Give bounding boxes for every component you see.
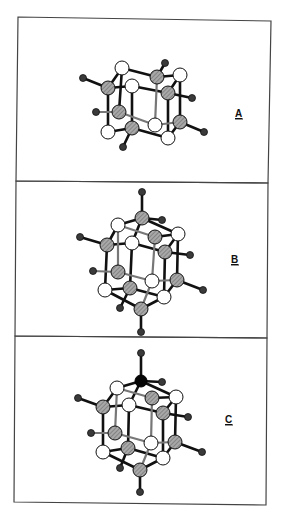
black-cap-atom [135, 375, 147, 387]
panel-a-frame [16, 17, 271, 183]
panel-a-molecule [80, 60, 208, 151]
panel-c-label: C [225, 414, 232, 425]
panel-b-label: B [231, 254, 238, 265]
panel-c-molecule [75, 350, 206, 496]
panel-a-label: A [235, 108, 242, 119]
panel-b-molecule [77, 189, 207, 336]
molecular-structure-figure: A [0, 0, 281, 518]
